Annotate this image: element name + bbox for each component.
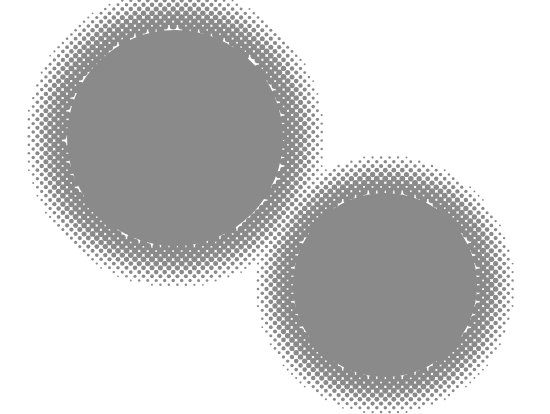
halftone-circles: [0, 0, 550, 414]
halftone-image: [0, 0, 550, 414]
